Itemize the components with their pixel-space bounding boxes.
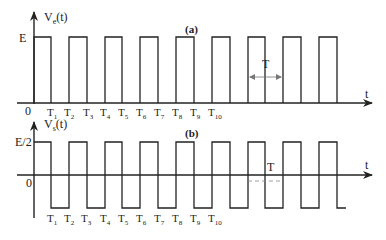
svg-text:T7: T7 xyxy=(154,212,165,227)
tick-labels-b: T1 T2 T3 T4 T5 T6 T7 T8 T9 T10 xyxy=(47,212,222,227)
svg-text:T10: T10 xyxy=(208,212,222,227)
svg-text:T4: T4 xyxy=(100,106,111,121)
svg-text:T3: T3 xyxy=(83,106,94,121)
origin-label-a: 0 xyxy=(25,104,31,118)
panel-label-b: (b) xyxy=(185,127,199,140)
panel-label-a: (a) xyxy=(185,23,198,36)
x-axis-label-b: t xyxy=(365,158,369,172)
y-axis-label-b: Vs(t) xyxy=(44,117,67,133)
waveform-diagram: Ve(t) E (a) T t 0 T1 T2 T3 T4 T5 T6 T7 T… xyxy=(0,0,386,240)
panel-a: Ve(t) E (a) T t 0 T1 T2 T3 T4 T5 T6 T7 T… xyxy=(17,10,372,121)
svg-text:T7: T7 xyxy=(154,106,165,121)
svg-text:T9: T9 xyxy=(190,212,201,227)
svg-text:T6: T6 xyxy=(136,106,147,121)
svg-text:T5: T5 xyxy=(118,212,129,227)
svg-text:T4: T4 xyxy=(100,212,111,227)
x-axis-label-a: t xyxy=(365,87,369,101)
level-label-b: E/2 xyxy=(15,135,32,149)
panel-b: Vs(t) E/2 (b) T t 0 T1 T2 T3 T4 T5 T6 T7… xyxy=(15,117,372,227)
origin-label-b: 0 xyxy=(26,176,32,190)
svg-text:T3: T3 xyxy=(81,212,92,227)
svg-text:T10: T10 xyxy=(208,106,222,121)
pulse-train-a xyxy=(34,37,337,103)
svg-text:T5: T5 xyxy=(118,106,129,121)
period-label-b: T xyxy=(267,160,275,174)
svg-text:T6: T6 xyxy=(136,212,147,227)
level-label-a: E xyxy=(19,31,26,45)
y-axis-label-a: Ve(t) xyxy=(44,10,68,26)
period-label-a: T xyxy=(262,57,270,71)
tick-labels-a: T1 T2 T3 T4 T5 T6 T7 T8 T9 T10 xyxy=(47,106,222,121)
svg-text:T1: T1 xyxy=(47,212,58,227)
svg-text:T9: T9 xyxy=(190,106,201,121)
svg-text:T8: T8 xyxy=(172,212,183,227)
svg-text:T8: T8 xyxy=(172,106,183,121)
svg-text:T2: T2 xyxy=(64,212,75,227)
